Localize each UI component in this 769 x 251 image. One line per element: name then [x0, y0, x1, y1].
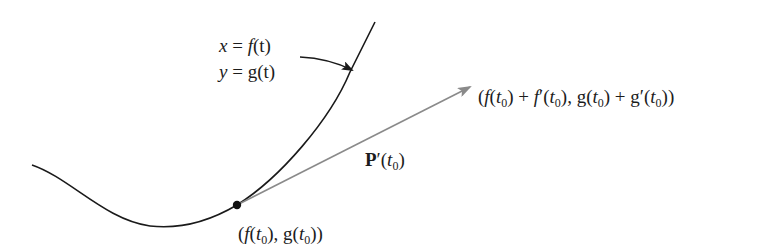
y-arg: (t): [257, 61, 275, 82]
parametric-curve: [32, 22, 375, 227]
plus: ) +: [604, 86, 631, 107]
x-equation-label: x = f(t): [219, 36, 271, 55]
plus: ) +: [507, 86, 534, 107]
vector-close: ): [398, 149, 404, 170]
paren: )): [310, 223, 323, 244]
y-equals: =: [227, 61, 247, 82]
point-at-t0: [233, 201, 241, 209]
vector-tip-coordinates-label: (f(t0) + f′(t0), g(t0) + g′(t0)): [478, 87, 674, 109]
diagram-canvas: [0, 0, 769, 251]
paren-comma: ),: [267, 223, 283, 244]
y-func: g: [248, 61, 258, 82]
label-pointer-arrow: [300, 57, 352, 70]
x-arg: (t): [253, 35, 271, 56]
g-prime-symbol: g: [630, 86, 640, 107]
tangent-vector-arrow: [237, 87, 470, 205]
y-equation-label: y = g(t): [219, 62, 275, 81]
g-symbol: g: [283, 223, 293, 244]
x-equals: =: [227, 35, 247, 56]
vector-name: P: [365, 149, 377, 170]
paren: )): [662, 86, 675, 107]
paren-comma: ),: [561, 86, 577, 107]
g-symbol: g: [577, 86, 587, 107]
tangent-vector-label: P′(t0): [365, 150, 405, 172]
point-coordinates-label: (f(t0), g(t0)): [238, 224, 323, 246]
